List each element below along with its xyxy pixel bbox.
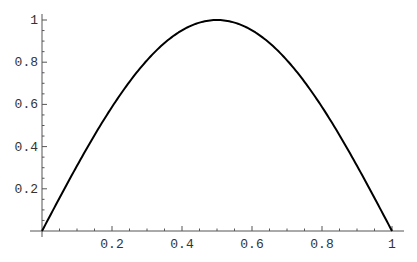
x-tick-label: 0.8: [310, 237, 333, 252]
x-tick-label: 0.2: [100, 237, 123, 252]
ticks: [42, 20, 392, 231]
x-tick-label: 0.6: [240, 237, 263, 252]
y-tick-label: 0.2: [15, 182, 38, 197]
line-chart: 0.20.40.60.810.20.40.60.81: [0, 0, 417, 262]
data-curve: [42, 20, 392, 231]
x-tick-label: 1: [388, 237, 396, 252]
axes: [30, 14, 404, 237]
y-tick-label: 1: [30, 13, 38, 28]
y-tick-label: 0.4: [15, 140, 39, 155]
y-tick-label: 0.6: [15, 97, 38, 112]
x-tick-label: 0.4: [170, 237, 194, 252]
y-tick-label: 0.8: [15, 55, 38, 70]
